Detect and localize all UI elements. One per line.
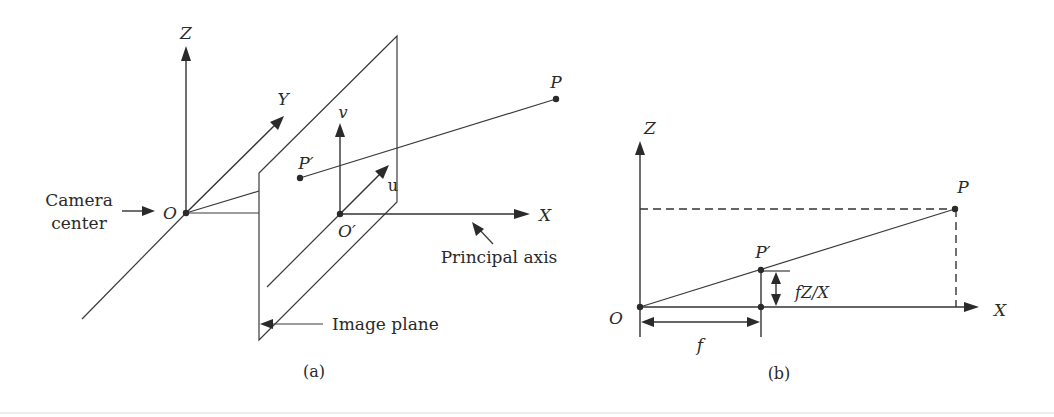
- camera-center-label-line1: Camera: [45, 190, 113, 210]
- arrowhead-icon: [181, 46, 191, 61]
- arrowhead-icon: [641, 317, 654, 327]
- scene-point-a: [553, 96, 559, 102]
- panel-a-3d-camera-model: Z Y X v u: [45, 23, 562, 381]
- z-axis-label-a: Z: [179, 23, 193, 43]
- scene-point-label-b: P: [956, 177, 969, 197]
- z-axis-b: [635, 141, 645, 307]
- scene-point-label-a: P: [549, 72, 562, 92]
- image-point-label-a: P′: [297, 153, 313, 173]
- principal-point-label: O′: [338, 221, 356, 241]
- panel-b-caption: (b): [768, 364, 791, 383]
- v-axis: [335, 123, 345, 214]
- plane-inner-line: [267, 214, 340, 287]
- focal-length-dimension-arrow: [641, 317, 760, 327]
- x-axis-b: [640, 302, 979, 312]
- focal-length-label: f: [695, 335, 706, 355]
- arrowhead-icon: [142, 206, 155, 216]
- image-point-b: [758, 267, 764, 273]
- principal-point: [337, 211, 343, 217]
- scene-point-b: [952, 206, 958, 212]
- x-axis-label-b: X: [992, 300, 1007, 320]
- camera-center-label-line2: center: [51, 213, 107, 233]
- image-plane: [259, 36, 397, 340]
- principal-axis-arrow: [472, 222, 493, 244]
- panel-b-2d-projection: Z X fZ/X f: [609, 118, 1007, 383]
- principal-axis-label: Principal axis: [441, 247, 558, 267]
- u-axis: [340, 165, 389, 214]
- panel-a-caption: (a): [303, 362, 325, 381]
- arrowhead-icon: [514, 209, 530, 219]
- arrowhead-icon: [771, 272, 781, 284]
- v-axis-label: v: [338, 103, 347, 122]
- origin-point-b: [637, 304, 643, 310]
- origin-label-b: O: [609, 308, 623, 328]
- height-dimension-arrow: [771, 272, 781, 306]
- arrowhead-icon: [771, 294, 781, 306]
- arrowhead-icon: [260, 319, 273, 329]
- image-plane-arrow: [260, 319, 323, 329]
- arrowhead-icon: [964, 302, 979, 312]
- origin-point-a: [183, 210, 189, 216]
- image-point-label-b: P′: [754, 242, 770, 262]
- x-axis-a: [340, 209, 530, 219]
- z-axis-label-b: Z: [643, 118, 657, 138]
- image-plane-base-point: [758, 304, 764, 310]
- projected-height-label: fZ/X: [794, 283, 829, 302]
- page-edge-divider: [0, 412, 1054, 414]
- arrowhead-icon: [472, 222, 484, 236]
- arrowhead-icon: [335, 123, 345, 137]
- camera-center-arrow: [122, 206, 155, 216]
- origin-label-a: O: [163, 203, 177, 223]
- image-plane-label: Image plane: [332, 314, 439, 334]
- u-axis-label: u: [388, 176, 398, 195]
- z-axis-a: [181, 46, 191, 213]
- y-axis-label-a: Y: [277, 89, 290, 109]
- arrowhead-icon: [747, 317, 760, 327]
- x-axis-label-a: X: [537, 205, 552, 225]
- image-point-a: [297, 175, 303, 181]
- arrowhead-icon: [635, 141, 645, 155]
- pinhole-camera-figure: Z Y X v u: [0, 0, 1054, 417]
